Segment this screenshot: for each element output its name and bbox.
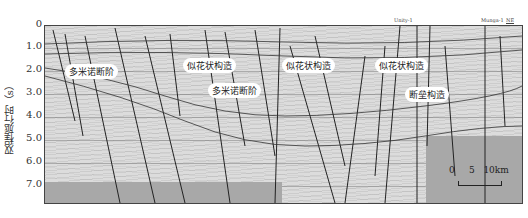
y-tick: 6.0	[26, 155, 42, 166]
well-label-unity: Unity-1	[394, 17, 413, 23]
fault-lines	[45, 26, 522, 203]
y-tick: 7.0	[26, 178, 42, 189]
y-tick: 0	[36, 18, 42, 29]
annotation-flower-3: 似花状构造	[375, 58, 428, 73]
annotation-horst: 断垒构造	[405, 87, 449, 102]
y-tick: 2.0	[26, 63, 42, 74]
y-tick: 1.0	[26, 40, 42, 51]
y-tick: 4.0	[26, 109, 42, 120]
y-tick: 3.0	[26, 86, 42, 97]
direction-label: NE	[506, 17, 514, 23]
seismic-section: 多米诺断阶 似花状构造 多米诺断阶 似花状构造 似花状构造 断垒构造	[44, 25, 523, 204]
y-axis-ticks: 0 1.0 2.0 3.0 4.0 5.0 6.0 7.0	[20, 0, 42, 218]
well-label-munga: Munga-1	[481, 17, 504, 23]
annotation-flower-1: 似花状构造	[183, 58, 236, 73]
scale-label-0: 0	[449, 165, 455, 175]
annotation-domino-2: 多米诺断阶	[208, 83, 261, 98]
annotation-flower-2: 似花状构造	[282, 58, 335, 73]
scale-label-5: 5	[469, 165, 475, 175]
y-tick: 5.0	[26, 132, 42, 143]
scale-bar	[458, 181, 502, 186]
annotation-domino-1: 多米诺断阶	[65, 64, 118, 79]
scale-bar-labels: 0 5 10km	[449, 165, 509, 175]
scale-label-10: 10km	[483, 165, 508, 175]
y-axis-label: 双程旅行时（s）	[2, 80, 16, 155]
